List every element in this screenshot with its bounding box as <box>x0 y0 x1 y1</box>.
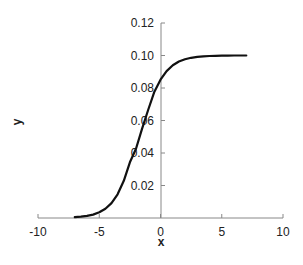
y-axis-ticks: 0.020.040.060.080.100.12 <box>131 16 165 193</box>
chart: -10-50510 0.020.040.060.080.100.12 x y <box>0 0 303 265</box>
x-tick-label: 5 <box>218 225 225 239</box>
y-tick-label: 0.10 <box>131 49 155 63</box>
y-axis-title: y <box>10 118 24 125</box>
x-tick-label: -10 <box>29 225 47 239</box>
y-tick-label: 0.12 <box>131 16 155 30</box>
axes <box>38 23 283 218</box>
x-axis-title: x <box>158 235 165 249</box>
y-tick-label: 0.02 <box>131 179 155 193</box>
y-tick-label: 0.08 <box>131 81 155 95</box>
x-tick-label: -5 <box>94 225 105 239</box>
x-tick-label: 10 <box>276 225 290 239</box>
